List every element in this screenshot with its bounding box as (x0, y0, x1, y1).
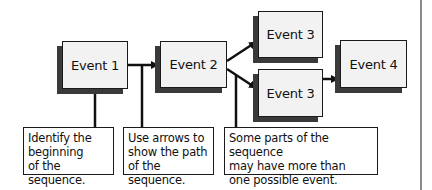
arrow-e2-e3b (227, 69, 256, 88)
event-label: Event 4 (349, 57, 397, 72)
event-label: Event 3 (266, 27, 314, 42)
event-box-3a: Event 3 (258, 11, 323, 58)
note-use-arrows: Use arrows to show the path of the seque… (123, 127, 214, 175)
event-box-1: Event 1 (62, 41, 128, 89)
arrow-e2-e3a (227, 42, 256, 61)
note-identify-beginning: Identify the beginning of the sequence. (23, 127, 114, 175)
event-box-4: Event 4 (340, 40, 407, 88)
note-multiple-events: Some parts of the sequence may have more… (224, 127, 378, 175)
event-box-2: Event 2 (160, 41, 227, 88)
side-rule-divider (420, 0, 422, 190)
event-label: Event 3 (266, 86, 314, 101)
event-box-3b: Event 3 (258, 69, 323, 117)
event-label: Event 1 (71, 58, 119, 73)
event-label: Event 2 (169, 57, 217, 72)
sequence-diagram: Event 1 Event 2 Event 3 Event 3 Event 4 … (0, 0, 432, 190)
